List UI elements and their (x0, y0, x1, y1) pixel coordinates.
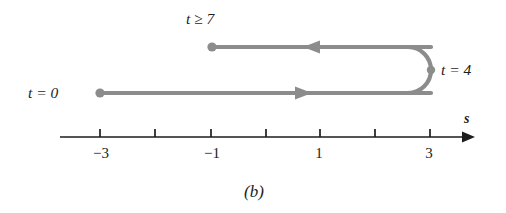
turn-point-dot (427, 66, 435, 74)
axis-ticks (100, 129, 430, 137)
start-time-label: t = 0 (28, 85, 58, 101)
axis-tick-label-minus3: −3 (90, 146, 112, 161)
axis-tick-label-minus1: −1 (201, 146, 223, 161)
s-axis-group (60, 129, 475, 143)
axis-tick-label-plus1: 1 (309, 146, 329, 161)
end-time-label: t ≥ 7 (186, 11, 214, 27)
start-point-dot (95, 88, 104, 97)
axis-name-label: s (464, 112, 469, 126)
figure-caption: (b) (244, 183, 264, 200)
axis-tick-label-plus3: 3 (419, 146, 439, 161)
axis-arrowhead-icon (462, 132, 475, 143)
motion-path-group (95, 40, 435, 99)
left-direction-arrowhead-icon (303, 40, 320, 53)
end-point-dot (207, 42, 216, 51)
right-direction-arrowhead-icon (295, 86, 312, 99)
turn-time-label: t = 4 (441, 62, 471, 78)
motion-diagram-figure: t ≥ 7 t = 0 t = 4 s −3 −1 1 3 (b) (0, 0, 506, 213)
